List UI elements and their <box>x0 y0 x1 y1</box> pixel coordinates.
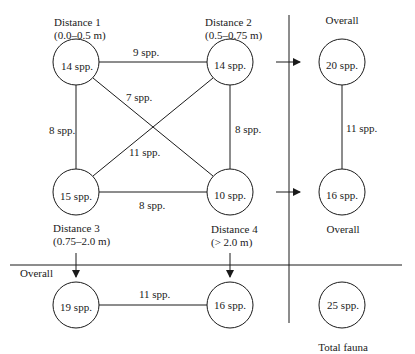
edge-d2-d3-label: 11 spp. <box>129 146 160 159</box>
node-d2-value: 14 spp. <box>214 59 246 71</box>
node-d1-title: Distance 1 <box>54 16 101 29</box>
node-overall-top-value: 20 spp. <box>326 59 358 71</box>
node-total-title: Total fauna <box>318 341 368 354</box>
node-d3-value: 15 spp. <box>60 190 92 202</box>
node-overall-right-bottom-value: 16 spp. <box>214 299 246 311</box>
node-overall-right-title: Overall <box>327 223 360 236</box>
edge-d1-d3-label: 8 spp. <box>49 124 75 137</box>
node-d4-range: (> 2.0 m) <box>211 236 252 249</box>
node-overall-right-value: 16 spp. <box>326 189 358 201</box>
node-d4-value: 10 spp. <box>214 189 246 201</box>
overall-row-label: Overall <box>20 267 53 280</box>
node-d3-range: (0.75–2.0 m) <box>53 235 110 248</box>
node-total-value: 25 spp. <box>327 299 359 311</box>
node-d4-title: Distance 4 <box>211 223 258 236</box>
node-d2-title: Distance 2 <box>205 16 252 29</box>
node-d1-value: 14 spp. <box>61 60 93 72</box>
edge-d3-d4-label: 8 spp. <box>139 199 165 212</box>
node-overall-top-title: Overall <box>326 14 359 27</box>
node-d1-range: (0.0–0.5 m) <box>54 29 106 42</box>
node-overall-left-bottom-value: 19 spp. <box>60 301 92 313</box>
edge-overall-horizontal-label: 11 spp. <box>139 288 170 301</box>
node-d3-title: Distance 3 <box>53 222 100 235</box>
edge-d2-d4-label: 8 spp. <box>235 123 261 136</box>
edge-overall-vertical-label: 11 spp. <box>346 122 377 135</box>
edge-d1-d4-label: 7 spp. <box>126 91 152 104</box>
node-d2-range: (0.5–0.75 m) <box>205 29 262 42</box>
edge-d1-d2-label: 9 spp. <box>133 46 159 59</box>
